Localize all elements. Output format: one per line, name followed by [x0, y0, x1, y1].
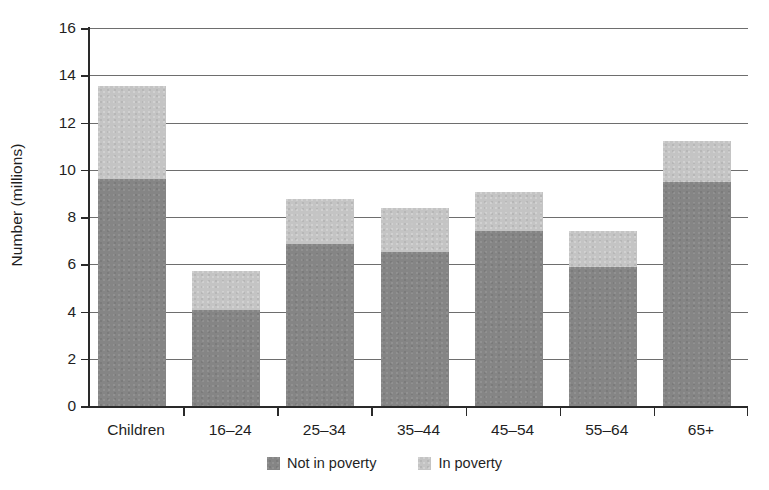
- y-tick-label-2: 2: [34, 350, 76, 368]
- bar-segment[interactable]: [192, 271, 260, 310]
- legend-label: Not in poverty: [287, 455, 376, 471]
- bar-segment[interactable]: [569, 267, 637, 406]
- bar-segment[interactable]: [286, 199, 354, 244]
- bar-segment[interactable]: [192, 310, 260, 406]
- stacked-bar-chart: Number (millions) 1614121086420 Children…: [0, 0, 769, 490]
- x-tick-mark-6: [654, 407, 656, 416]
- x-tick-mark-3: [371, 407, 373, 416]
- x-tick-mark-4: [466, 407, 468, 416]
- y-tick-label-16: 16: [34, 19, 76, 37]
- y-tick-label-4: 4: [34, 303, 76, 321]
- y-axis-title-text: Number (millions): [8, 143, 26, 266]
- y-tick-mark-16: [81, 28, 89, 30]
- legend-item[interactable]: Not in poverty: [267, 455, 376, 471]
- x-axis-line: [89, 406, 748, 408]
- bar-segment[interactable]: [569, 231, 637, 266]
- y-tick-label-0: 0: [34, 397, 76, 415]
- y-tick-label-12: 12: [34, 114, 76, 132]
- bar-group[interactable]: [475, 28, 543, 406]
- bar-segment[interactable]: [381, 252, 449, 406]
- bar-segment[interactable]: [98, 86, 166, 179]
- y-tick-mark-2: [81, 359, 89, 361]
- bar-segment[interactable]: [286, 244, 354, 406]
- legend-swatch-icon: [267, 457, 280, 470]
- x-tick-mark-1: [183, 407, 185, 416]
- legend-swatch-icon: [418, 457, 431, 470]
- y-tick-mark-8: [81, 217, 89, 219]
- y-tick-label-6: 6: [34, 255, 76, 273]
- y-tick-mark-10: [81, 170, 89, 172]
- x-tick-mark-2: [277, 407, 279, 416]
- y-tick-mark-4: [81, 312, 89, 314]
- bar-segment[interactable]: [663, 141, 731, 181]
- x-tick-mark-5: [560, 407, 562, 416]
- y-tick-label-10: 10: [34, 161, 76, 179]
- x-tick-label-6: 65+: [641, 421, 761, 439]
- legend-label: In poverty: [438, 455, 502, 471]
- y-tick-mark-0: [81, 406, 89, 408]
- bar-group[interactable]: [192, 28, 260, 406]
- y-tick-mark-14: [81, 75, 89, 77]
- bar-group[interactable]: [663, 28, 731, 406]
- legend-item[interactable]: In poverty: [418, 455, 502, 471]
- bars-layer: [89, 28, 748, 406]
- bar-group[interactable]: [569, 28, 637, 406]
- bar-segment[interactable]: [475, 231, 543, 406]
- bar-group[interactable]: [286, 28, 354, 406]
- y-axis-tick-labels: 1614121086420: [28, 0, 76, 490]
- y-tick-label-14: 14: [34, 66, 76, 84]
- bar-segment[interactable]: [475, 192, 543, 231]
- x-axis-right-cap: [747, 407, 749, 416]
- chart-legend: Not in povertyIn poverty: [0, 455, 769, 471]
- y-tick-mark-6: [81, 264, 89, 266]
- y-tick-mark-12: [81, 123, 89, 125]
- bar-segment[interactable]: [663, 182, 731, 406]
- bar-group[interactable]: [381, 28, 449, 406]
- bar-segment[interactable]: [381, 208, 449, 253]
- bar-segment[interactable]: [98, 179, 166, 406]
- bar-group[interactable]: [98, 28, 166, 406]
- y-tick-label-8: 8: [34, 208, 76, 226]
